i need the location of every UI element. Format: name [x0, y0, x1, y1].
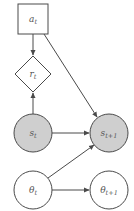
graphical-model-diagram: atrtstst+1θtθt+1 — [0, 0, 134, 211]
node-s_t: st — [14, 114, 52, 152]
node-a_t: at — [18, 4, 48, 34]
nodes-group: atrtstst+1θtθt+1 — [14, 4, 128, 209]
edges-group — [33, 34, 97, 190]
node-s_t1: st+1 — [90, 114, 128, 152]
node-theta_t: θt — [14, 171, 52, 209]
edge-theta_t-to-s_t1 — [48, 145, 94, 178]
node-r_t: rt — [15, 56, 51, 92]
edge-a_t-to-s_t1 — [44, 34, 97, 117]
node-theta_t1: θt+1 — [90, 171, 128, 209]
